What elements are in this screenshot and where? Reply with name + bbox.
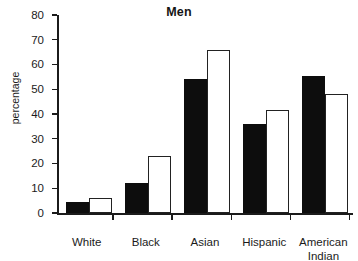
y-tick-mark: 0 bbox=[52, 212, 57, 213]
y-tick-label: 0 bbox=[38, 207, 44, 219]
x-group-tick bbox=[231, 213, 232, 220]
x-axis-group-label: Asian bbox=[175, 236, 234, 250]
x-axis-group-label-line: Indian bbox=[294, 250, 353, 261]
x-axis-group-label: Black bbox=[116, 236, 175, 250]
bar-hollow bbox=[266, 110, 289, 213]
bar-hollow bbox=[89, 198, 112, 213]
y-tick-mark: 30 bbox=[52, 138, 57, 139]
y-tick-label: 30 bbox=[31, 133, 44, 145]
bar-filled bbox=[184, 79, 207, 213]
x-group-tick bbox=[171, 213, 172, 220]
x-axis-line bbox=[57, 213, 353, 215]
y-axis-line bbox=[57, 15, 59, 213]
y-tick-label: 40 bbox=[31, 108, 44, 120]
bar-hollow bbox=[148, 156, 171, 213]
bar-filled bbox=[125, 183, 148, 213]
x-axis-group-label-line: Asian bbox=[175, 236, 234, 250]
bar-filled bbox=[66, 202, 89, 213]
y-tick-mark: 40 bbox=[52, 113, 57, 114]
y-tick-label: 60 bbox=[31, 58, 44, 70]
x-group-tick bbox=[112, 213, 113, 220]
y-tick-label: 80 bbox=[31, 9, 44, 21]
y-tick-mark: 20 bbox=[52, 163, 57, 164]
x-group-tick bbox=[349, 213, 350, 220]
y-tick-mark: 80 bbox=[52, 14, 57, 15]
x-axis-group-label: White bbox=[57, 236, 116, 250]
bar-filled bbox=[243, 124, 266, 213]
y-tick-label: 20 bbox=[31, 157, 44, 169]
y-tick-label: 50 bbox=[31, 83, 44, 95]
bar-hollow bbox=[207, 50, 230, 213]
bar-filled bbox=[302, 76, 325, 213]
bar-hollow bbox=[325, 94, 348, 213]
x-axis-group-label: AmericanIndian bbox=[294, 236, 353, 261]
bar-chart: Men percentage 01020304050607080 WhiteBl… bbox=[0, 0, 358, 261]
x-axis-group-label-line: Hispanic bbox=[235, 236, 294, 250]
x-axis-group-label-line: Black bbox=[116, 236, 175, 250]
y-tick-mark: 10 bbox=[52, 188, 57, 189]
y-tick-label: 70 bbox=[31, 34, 44, 46]
x-axis-group-label-line: American bbox=[294, 236, 353, 250]
y-tick-label: 10 bbox=[31, 182, 44, 194]
x-group-tick bbox=[290, 213, 291, 220]
x-axis-group-label: Hispanic bbox=[235, 236, 294, 250]
y-tick-mark: 50 bbox=[52, 89, 57, 90]
y-tick-mark: 60 bbox=[52, 64, 57, 65]
plot-area: 01020304050607080 WhiteBlackAsianHispani… bbox=[57, 15, 353, 213]
x-axis-group-label-line: White bbox=[57, 236, 116, 250]
y-axis-label: percentage bbox=[9, 58, 21, 138]
y-tick-mark: 70 bbox=[52, 39, 57, 40]
